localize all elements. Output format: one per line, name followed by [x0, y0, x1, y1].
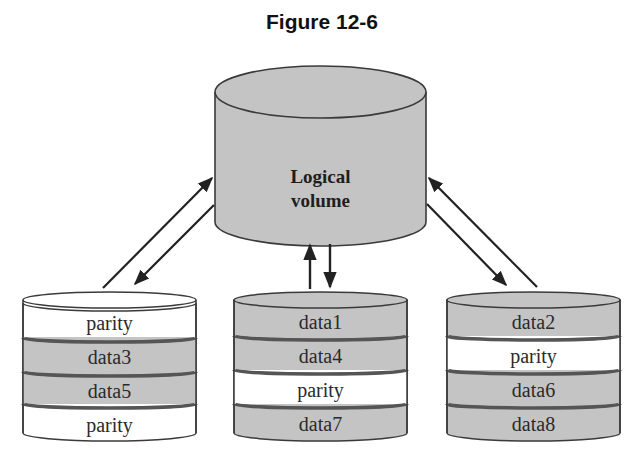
block-label: data4 — [299, 345, 342, 367]
raid-diagram: Logical volume parity data3 data5 parity — [0, 0, 644, 464]
logical-volume-cylinder: Logical volume — [215, 66, 426, 246]
logical-volume-label-1: Logical — [290, 166, 350, 187]
block-label: data7 — [299, 413, 342, 435]
disk-2: data1 data4 parity data7 — [234, 292, 407, 441]
block-label: parity — [86, 414, 133, 437]
block-label: data8 — [512, 413, 555, 435]
arrow-up-right-icon — [429, 178, 537, 287]
arrows-right — [427, 178, 537, 287]
disk-3: data2 parity data6 data8 — [447, 292, 620, 441]
arrows-center — [310, 244, 330, 289]
block-label: data6 — [512, 379, 555, 401]
arrows-left — [103, 178, 214, 288]
block-label: parity — [297, 379, 344, 402]
arrow-up-left-icon — [103, 178, 212, 288]
block-label: data1 — [299, 311, 342, 333]
logical-volume-label-2: volume — [291, 190, 350, 211]
disk-1: parity data3 data5 parity — [23, 292, 196, 441]
block-label: data3 — [88, 346, 131, 368]
block-label: parity — [86, 312, 133, 335]
block-label: parity — [510, 345, 557, 368]
block-label: data5 — [88, 380, 131, 402]
block-label: data2 — [512, 311, 555, 333]
